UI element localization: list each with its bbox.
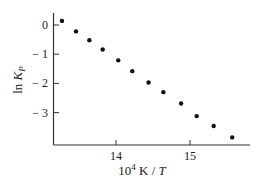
x-tick-label: 14	[110, 149, 122, 163]
axes	[54, 13, 251, 145]
data-point	[116, 58, 120, 62]
data-point	[230, 135, 234, 139]
y-ticks: 0− 1− 2− 3	[32, 18, 59, 120]
data-point	[161, 90, 165, 94]
y-tick-label: − 2	[32, 76, 48, 90]
data-point	[179, 101, 183, 105]
data-point	[100, 47, 104, 51]
scatter-chart: 0− 1− 2− 3 1415 104 K / T ln KP	[0, 0, 260, 187]
data-point	[194, 114, 198, 118]
data-point	[87, 38, 91, 42]
y-tick-label: − 3	[32, 106, 48, 120]
y-axis-title: ln KP	[10, 66, 27, 94]
x-ticks: 1415	[110, 140, 196, 163]
y-tick-label: − 1	[32, 47, 48, 61]
data-point	[60, 19, 64, 23]
data-point	[146, 80, 150, 84]
data-point	[211, 124, 215, 128]
data-point	[74, 29, 78, 33]
data-point	[130, 69, 134, 73]
x-axis-title: 104 K / T	[118, 162, 166, 178]
x-tick-label: 15	[184, 149, 196, 163]
data-points	[60, 19, 235, 140]
y-tick-label: 0	[42, 18, 48, 32]
